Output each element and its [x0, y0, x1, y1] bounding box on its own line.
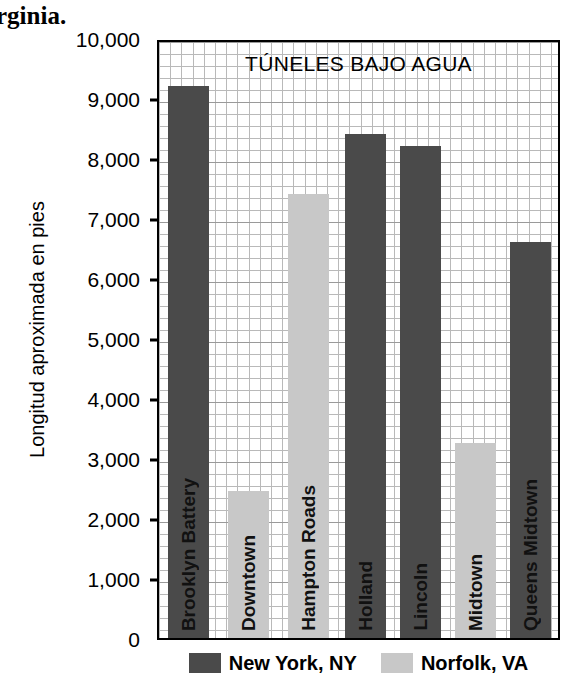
plot-area: TÚNELES BAJO AGUA Brooklyn BatteryDownto… [157, 40, 560, 640]
bar-label: Midtown [465, 554, 487, 631]
y-axis-tick-labels: 10,0009,0008,0007,0006,0005,0004,0003,00… [0, 0, 148, 682]
y-axis-tick-label: 4,000 [87, 388, 140, 412]
y-axis-tick-label: 2,000 [87, 508, 140, 532]
chart-legend: New York, NYNorfolk, VA [157, 648, 560, 678]
y-axis-tick-label: 10,000 [76, 28, 140, 52]
legend-swatch [189, 653, 221, 673]
bar-label: Downtown [238, 535, 260, 631]
legend-swatch [381, 653, 413, 673]
bar-label: Brooklyn Battery [178, 478, 200, 631]
y-axis-tick-label: 6,000 [87, 268, 140, 292]
bar: Queens Midtown [510, 242, 551, 638]
bar-chart: Longitud aproximada en pies 10,0009,0008… [0, 0, 570, 682]
bar: Hampton Roads [288, 194, 329, 638]
bar: Brooklyn Battery [168, 86, 209, 638]
bar-label: Lincoln [410, 563, 432, 631]
y-axis-tick-label: 5,000 [87, 328, 140, 352]
y-axis-tick-label: 9,000 [87, 88, 140, 112]
chart-title: TÚNELES BAJO AGUA [159, 52, 558, 76]
bar: Lincoln [400, 146, 441, 638]
legend-item: Norfolk, VA [381, 652, 528, 675]
bar: Holland [345, 134, 386, 638]
y-axis-tick-label: 0 [128, 628, 140, 652]
y-axis-tick-label: 1,000 [87, 568, 140, 592]
bar: Downtown [228, 491, 269, 638]
legend-label: Norfolk, VA [421, 652, 528, 675]
bar-label: Hampton Roads [298, 485, 320, 631]
bar-label: Queens Midtown [520, 479, 542, 631]
y-axis-tick-label: 3,000 [87, 448, 140, 472]
legend-item: New York, NY [189, 652, 357, 675]
y-axis-tick-label: 8,000 [87, 148, 140, 172]
legend-label: New York, NY [229, 652, 357, 675]
bar-label: Holland [355, 561, 377, 631]
y-axis-tick-label: 7,000 [87, 208, 140, 232]
bar: Midtown [455, 443, 496, 638]
bar-group: Brooklyn BatteryDowntownHampton RoadsHol… [159, 42, 558, 638]
